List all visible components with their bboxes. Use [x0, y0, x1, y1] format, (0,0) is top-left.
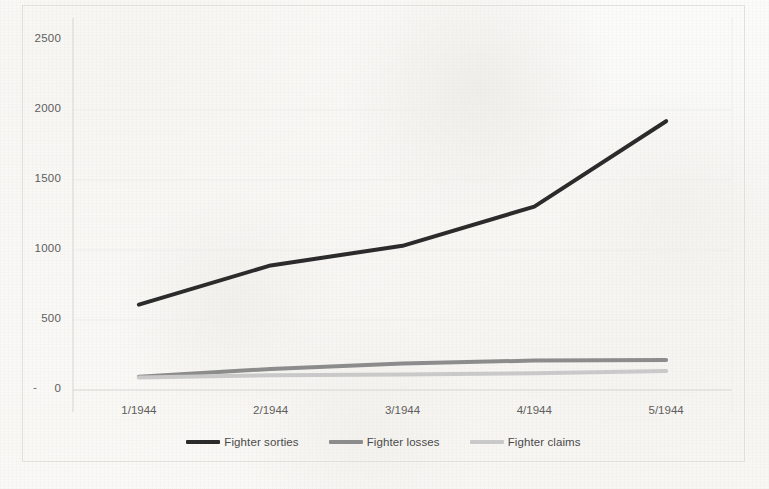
y-tick-label-0: 0 — [54, 382, 61, 394]
gridlines-group — [73, 110, 732, 390]
x-tick-label-4: 4/1944 — [489, 404, 579, 416]
x-tick-label-1: 1/1944 — [94, 404, 184, 416]
legend-item-fighter-sorties[interactable]: Fighter sorties — [186, 436, 298, 448]
legend-swatch-icon — [186, 440, 220, 444]
legend-label: Fighter losses — [367, 436, 440, 448]
y-tick-label-1500: 1500 — [35, 172, 61, 184]
data-series-group — [139, 121, 666, 377]
axis-lines-group — [73, 18, 732, 412]
series-line-fighter-sorties — [139, 121, 666, 304]
chart-legend: Fighter sortiesFighter lossesFighter cla… — [22, 436, 745, 448]
legend-swatch-icon — [329, 440, 363, 444]
legend-item-fighter-losses[interactable]: Fighter losses — [329, 436, 440, 448]
legend-label: Fighter sorties — [224, 436, 298, 448]
x-tick-label-5: 5/1944 — [621, 404, 711, 416]
y-tick-label-500: 500 — [41, 312, 61, 324]
legend-swatch-icon — [470, 440, 504, 444]
chart-page: 0-50010001500200025001/19442/19443/19444… — [0, 0, 769, 489]
legend-label: Fighter claims — [508, 436, 581, 448]
x-tick-label-2: 2/1944 — [226, 404, 316, 416]
legend-item-fighter-claims[interactable]: Fighter claims — [470, 436, 581, 448]
y-tick-label-1000: 1000 — [35, 242, 61, 254]
y-tick-label-2500: 2500 — [35, 32, 61, 44]
y-tick-zero-dash: - — [33, 381, 37, 393]
y-tick-label-2000: 2000 — [35, 102, 61, 114]
x-tick-label-3: 3/1944 — [358, 404, 448, 416]
